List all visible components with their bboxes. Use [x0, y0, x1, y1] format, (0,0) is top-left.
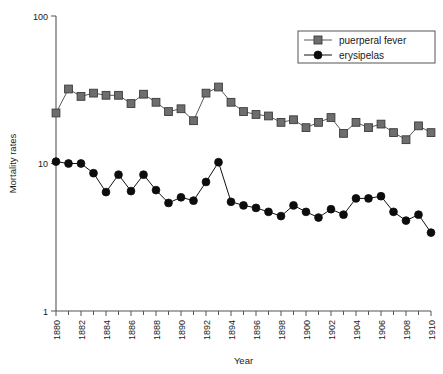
data-point-erysipelas[interactable] — [52, 158, 60, 166]
data-point-erysipelas[interactable] — [427, 229, 435, 237]
data-point-puerperal-fever[interactable] — [65, 85, 73, 93]
data-point-puerperal-fever[interactable] — [427, 129, 435, 137]
data-point-erysipelas[interactable] — [165, 199, 173, 207]
data-point-puerperal-fever[interactable] — [227, 98, 235, 106]
data-point-puerperal-fever[interactable] — [102, 91, 110, 99]
data-point-erysipelas[interactable] — [177, 193, 185, 201]
data-point-erysipelas[interactable] — [377, 192, 385, 200]
data-point-erysipelas[interactable] — [277, 212, 285, 220]
x-tick-label: 1894 — [227, 320, 237, 340]
data-point-puerperal-fever[interactable] — [265, 112, 273, 120]
legend-entry-erysipelas[interactable]: erysipelas — [304, 50, 384, 61]
data-point-puerperal-fever[interactable] — [115, 91, 123, 99]
x-tick-label: 1904 — [352, 320, 362, 340]
data-point-erysipelas[interactable] — [252, 204, 260, 212]
x-tick-label: 1890 — [177, 320, 187, 340]
data-point-puerperal-fever[interactable] — [315, 118, 323, 126]
data-point-erysipelas[interactable] — [290, 201, 298, 209]
data-point-erysipelas[interactable] — [340, 211, 348, 219]
x-axis-title: Year — [234, 355, 253, 366]
x-tick-label: 1910 — [427, 320, 437, 340]
x-tick-label: 1896 — [252, 320, 262, 340]
data-point-erysipelas[interactable] — [415, 211, 423, 219]
data-point-erysipelas[interactable] — [315, 214, 323, 222]
y-tick-label: 100 — [33, 12, 48, 22]
data-point-erysipelas[interactable] — [402, 217, 410, 225]
data-point-puerperal-fever[interactable] — [215, 83, 223, 91]
x-tick-label: 1906 — [377, 320, 387, 340]
data-point-erysipelas[interactable] — [390, 208, 398, 216]
data-point-puerperal-fever[interactable] — [190, 117, 198, 125]
data-point-puerperal-fever[interactable] — [327, 114, 335, 122]
x-tick-label: 1882 — [77, 320, 87, 340]
y-tick-label: 10 — [38, 159, 48, 169]
data-point-puerperal-fever[interactable] — [402, 136, 410, 144]
legend-entry-puerperal-fever[interactable]: puerperal fever — [304, 35, 407, 46]
x-tick-label: 1880 — [52, 320, 62, 340]
y-tick-label: 1 — [43, 307, 48, 317]
data-point-erysipelas[interactable] — [77, 160, 85, 168]
x-tick-label: 1902 — [327, 320, 337, 340]
data-point-puerperal-fever[interactable] — [152, 98, 160, 106]
data-point-puerperal-fever[interactable] — [340, 129, 348, 137]
data-point-erysipelas[interactable] — [215, 158, 223, 166]
data-point-erysipelas[interactable] — [115, 171, 123, 179]
data-point-puerperal-fever[interactable] — [77, 93, 85, 101]
data-point-erysipelas[interactable] — [302, 208, 310, 216]
x-tick-label: 1884 — [102, 320, 112, 340]
data-point-erysipelas[interactable] — [152, 186, 160, 194]
data-point-erysipelas[interactable] — [65, 160, 73, 168]
data-point-erysipelas[interactable] — [140, 171, 148, 179]
data-point-erysipelas[interactable] — [352, 194, 360, 202]
data-point-puerperal-fever[interactable] — [365, 124, 373, 132]
data-point-puerperal-fever[interactable] — [415, 122, 423, 130]
data-point-erysipelas[interactable] — [327, 205, 335, 213]
legend-circle-marker-icon — [314, 51, 322, 59]
data-point-erysipelas[interactable] — [365, 194, 373, 202]
chart-canvas: 1001011880188218841886188818901892189418… — [0, 0, 443, 374]
data-point-erysipelas[interactable] — [265, 208, 273, 216]
x-tick-label: 1888 — [152, 320, 162, 340]
data-point-puerperal-fever[interactable] — [127, 100, 135, 108]
data-point-erysipelas[interactable] — [127, 187, 135, 195]
data-point-puerperal-fever[interactable] — [177, 105, 185, 113]
x-tick-label: 1886 — [127, 320, 137, 340]
x-tick-label: 1900 — [302, 320, 312, 340]
data-point-erysipelas[interactable] — [90, 169, 98, 177]
data-point-erysipelas[interactable] — [240, 201, 248, 209]
legend: puerperal fevererysipelas — [298, 31, 435, 63]
data-point-puerperal-fever[interactable] — [202, 89, 210, 97]
data-point-puerperal-fever[interactable] — [377, 120, 385, 128]
data-point-puerperal-fever[interactable] — [90, 89, 98, 97]
data-point-erysipelas[interactable] — [102, 188, 110, 196]
data-point-puerperal-fever[interactable] — [352, 118, 360, 126]
data-point-erysipelas[interactable] — [202, 178, 210, 186]
series-line-erysipelas — [56, 162, 431, 233]
x-tick-label: 1908 — [402, 320, 412, 340]
data-point-puerperal-fever[interactable] — [290, 116, 298, 124]
y-axis-title: Mortality rates — [7, 133, 18, 193]
data-point-puerperal-fever[interactable] — [165, 108, 173, 116]
data-point-puerperal-fever[interactable] — [140, 90, 148, 98]
legend-label: erysipelas — [339, 50, 384, 61]
x-tick-label: 1898 — [277, 320, 287, 340]
data-point-erysipelas[interactable] — [227, 198, 235, 206]
mortality-rates-chart: 1001011880188218841886188818901892189418… — [0, 0, 443, 374]
data-point-puerperal-fever[interactable] — [302, 124, 310, 132]
x-tick-label: 1892 — [202, 320, 212, 340]
data-point-erysipelas[interactable] — [190, 197, 198, 205]
data-point-puerperal-fever[interactable] — [252, 111, 260, 119]
data-point-puerperal-fever[interactable] — [277, 118, 285, 126]
legend-square-marker-icon — [314, 36, 322, 44]
data-point-puerperal-fever[interactable] — [390, 129, 398, 137]
legend-label: puerperal fever — [339, 35, 407, 46]
data-point-puerperal-fever[interactable] — [240, 108, 248, 116]
data-point-puerperal-fever[interactable] — [52, 109, 60, 117]
